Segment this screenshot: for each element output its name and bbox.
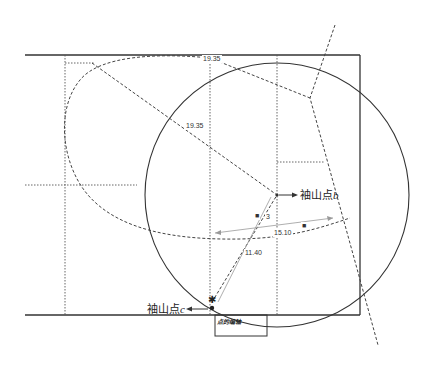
star-marker-icon: ✱ — [208, 295, 216, 305]
dim-radius-label: 11.40 — [244, 249, 263, 257]
vertical-guides — [65, 55, 277, 315]
dim-arc-label: 15.10 — [273, 229, 293, 237]
point-c — [210, 306, 214, 310]
point-b — [275, 193, 278, 196]
point-c-label: 袖山点c — [147, 303, 185, 316]
dim-offset-label: 3 — [265, 213, 271, 221]
diagram-canvas: 19.35 19.35 15.10 11.40 3 ■ ■ ✱ 袖山点b 袖山点… — [0, 0, 431, 366]
slant-line — [310, 25, 378, 345]
dim-diagonal-label: 19.35 — [185, 122, 205, 130]
square-marker-icon: ■ — [254, 212, 260, 220]
point-b-label: 袖山点b — [300, 189, 339, 202]
horizontal-guides — [25, 63, 324, 185]
dim-top-label: 19.35 — [202, 55, 222, 63]
box-label: 点的编轴 — [217, 317, 241, 326]
square-marker-icon: ■ — [301, 222, 307, 230]
